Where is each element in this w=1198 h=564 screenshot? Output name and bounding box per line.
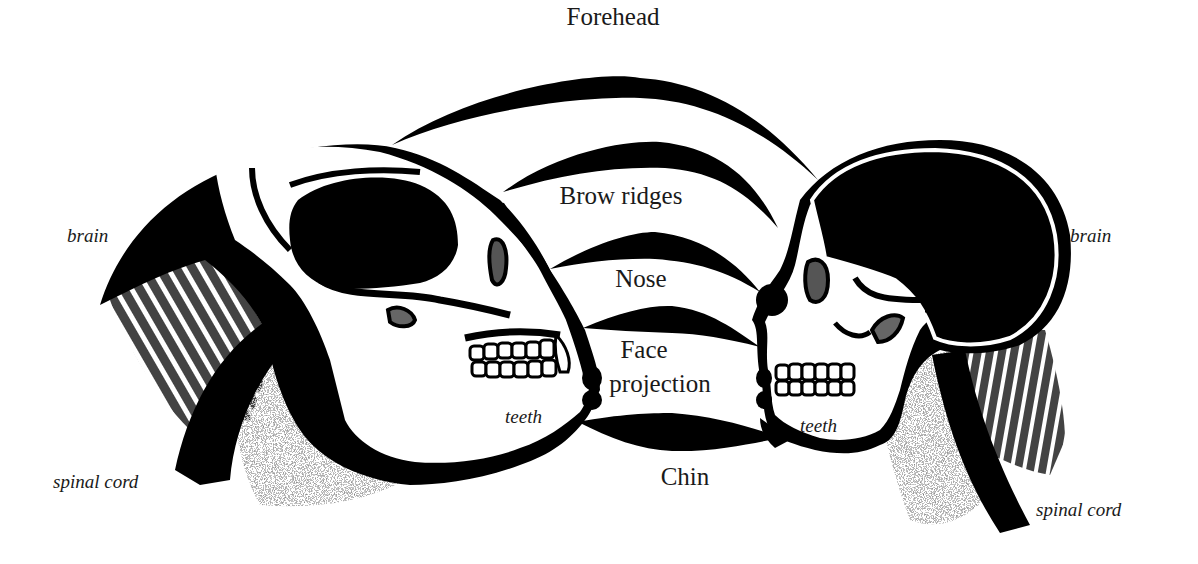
label-brow-ridges: Brow ridges <box>560 183 683 208</box>
human-skull <box>752 140 1071 533</box>
ape-skull <box>100 144 602 506</box>
label-face-projection-line2: projection <box>609 371 710 396</box>
label-face-projection-line1: Face <box>620 337 667 362</box>
human-lip-lower <box>756 391 772 409</box>
human-teeth <box>776 364 854 395</box>
label-ape-spinal-cord: spinal cord <box>53 472 138 491</box>
label-ape-teeth: teeth <box>505 407 542 426</box>
skull-comparison-diagram: Forehead Brow ridges Nose Face projectio… <box>0 0 1198 564</box>
chin-arc <box>578 413 782 451</box>
label-human-brain: brain <box>1070 226 1111 245</box>
ape-brain <box>289 177 458 288</box>
label-ape-brain: brain <box>67 226 108 245</box>
face-projection-arc <box>583 306 760 347</box>
human-eye-socket <box>805 260 828 302</box>
label-nose: Nose <box>615 266 666 291</box>
ape-eye-socket <box>490 239 507 284</box>
diagram-illustration <box>0 0 1198 564</box>
human-lip-upper <box>756 368 772 388</box>
label-human-spinal-cord: spinal cord <box>1036 500 1121 519</box>
label-human-teeth: teeth <box>800 416 837 435</box>
label-chin: Chin <box>661 464 710 489</box>
ape-lip-upper <box>582 366 602 390</box>
human-nose-knob <box>756 284 788 316</box>
label-forehead: Forehead <box>566 4 659 29</box>
ape-lip-lower <box>582 390 602 410</box>
